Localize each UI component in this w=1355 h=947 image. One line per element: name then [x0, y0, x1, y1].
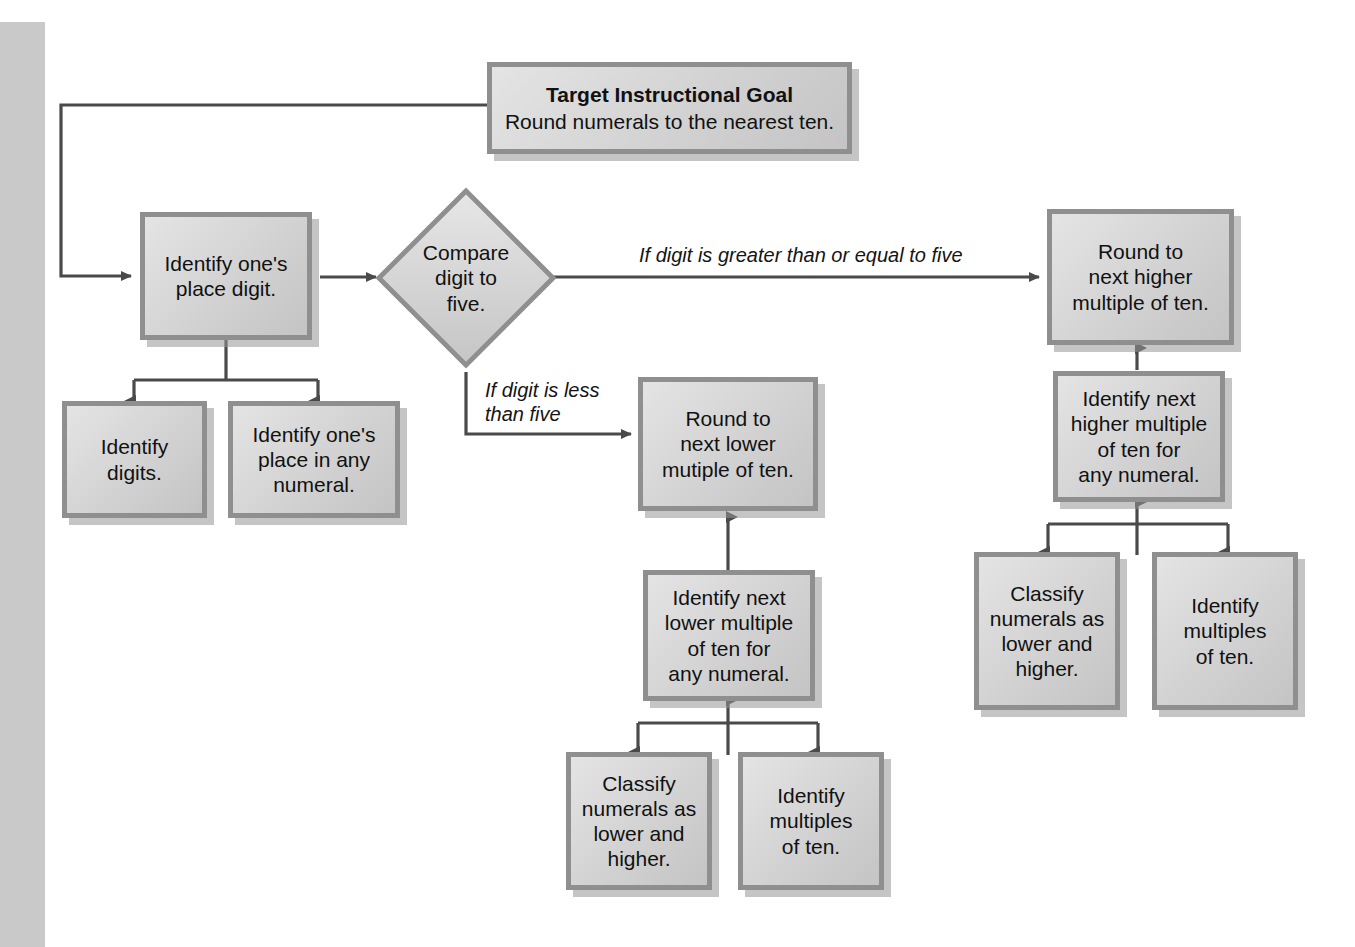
- node-identify-ones-place-any-numeral[interactable]: Identify one's place in any numeral.: [228, 401, 400, 518]
- node-identify-ones-place-digit[interactable]: Identify one's place digit.: [140, 212, 312, 340]
- goal-subtitle: Round numerals to the nearest ten.: [505, 109, 834, 134]
- node-identify-next-lower-multiple[interactable]: Identify next lower multiple of ten for …: [643, 570, 815, 701]
- node-identify-next-higher-multiple[interactable]: Identify next higher multiple of ten for…: [1053, 371, 1225, 502]
- node-round-next-higher-multiple[interactable]: Round to next higher multiple of ten.: [1047, 209, 1234, 345]
- target-instructional-goal-node[interactable]: Target Instructional Goal Round numerals…: [487, 62, 852, 154]
- node-classify-numerals-right[interactable]: Classify numerals as lower and higher.: [974, 552, 1120, 710]
- flowchart-canvas: Target Instructional Goal Round numerals…: [0, 0, 1355, 947]
- diamond-label: Compare digit to five.: [402, 214, 530, 342]
- node-round-next-lower-multiple[interactable]: Round to next lower mutiple of ten.: [638, 377, 818, 511]
- node-identify-multiples-of-ten-right[interactable]: Identify multiples of ten.: [1152, 552, 1298, 710]
- node-identify-multiples-of-ten-middle[interactable]: Identify multiples of ten.: [738, 752, 884, 890]
- node-identify-digits[interactable]: Identify digits.: [62, 401, 207, 518]
- edge-label-greater-or-equal: If digit is greater than or equal to fiv…: [639, 243, 963, 267]
- node-classify-numerals-middle[interactable]: Classify numerals as lower and higher.: [566, 752, 712, 890]
- edge-label-less-than: If digit is less than five: [485, 378, 599, 426]
- node-compare-digit-to-five[interactable]: Compare digit to five.: [402, 214, 530, 342]
- goal-title: Target Instructional Goal: [546, 82, 793, 107]
